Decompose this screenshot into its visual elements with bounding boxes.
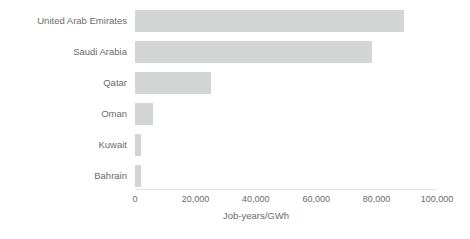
y-axis-label-2: Qatar <box>0 72 127 94</box>
y-axis-label-4: Kuwait <box>0 134 127 156</box>
x-axis-tick-2: 40,000 <box>242 194 270 204</box>
x-axis-tick-1: 20,000 <box>182 194 210 204</box>
x-axis-tick-0: 0 <box>132 194 137 204</box>
x-axis-tick-4: 80,000 <box>363 194 391 204</box>
bar-1 <box>135 41 372 63</box>
bar-0 <box>135 10 404 32</box>
y-axis-label-1: Saudi Arabia <box>0 41 127 63</box>
x-axis-title-text: Job-years/GWh <box>223 210 289 221</box>
bar-4 <box>135 134 141 156</box>
y-axis-label-3: Oman <box>0 103 127 125</box>
bar-2 <box>135 72 211 94</box>
x-axis-tick-3: 60,000 <box>302 194 330 204</box>
bar-5 <box>135 165 141 187</box>
bar-3 <box>135 103 153 125</box>
y-axis-label-5: Bahrain <box>0 165 127 187</box>
bars-container <box>135 10 437 189</box>
x-axis-title: Job-years/GWh <box>0 210 470 221</box>
bar-chart: United Arab Emirates Saudi Arabia Qatar … <box>0 0 470 239</box>
x-axis-tick-5: 100,000 <box>421 194 454 204</box>
x-axis-line <box>135 189 437 190</box>
y-axis-label-0: United Arab Emirates <box>0 10 127 32</box>
y-axis-category-labels: United Arab Emirates Saudi Arabia Qatar … <box>0 10 127 189</box>
